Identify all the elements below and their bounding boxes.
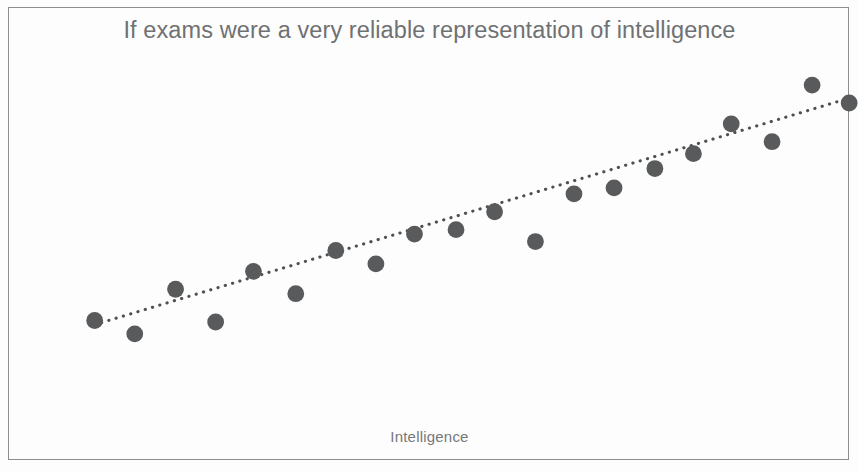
scatter-plot-area	[0, 0, 859, 473]
scatter-point	[685, 145, 702, 162]
scatter-point	[245, 263, 262, 280]
scatter-point	[841, 95, 858, 112]
scatter-point	[406, 226, 423, 243]
scatter-point	[207, 314, 224, 331]
scatter-point	[368, 256, 385, 273]
scatter-point	[287, 285, 304, 302]
scatter-point	[126, 326, 143, 343]
trend-line	[101, 101, 840, 323]
scatter-point	[606, 180, 623, 197]
scatter-point	[167, 281, 184, 298]
scatter-point	[764, 133, 781, 150]
scatter-point	[646, 160, 663, 177]
scatter-point	[448, 221, 465, 238]
scatter-point	[566, 185, 583, 202]
chart-figure: If exams were a very reliable representa…	[0, 0, 859, 473]
scatter-point	[486, 203, 503, 220]
scatter-point	[527, 233, 544, 250]
scatter-points-group	[86, 77, 857, 343]
scatter-point	[804, 77, 821, 94]
scatter-point	[86, 312, 103, 329]
scatter-point	[327, 242, 344, 259]
scatter-point	[723, 115, 740, 132]
